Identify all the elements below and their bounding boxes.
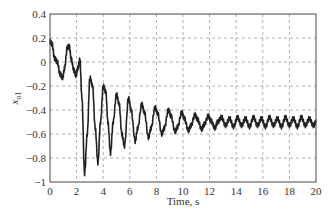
x-axis-label: Time, s [167, 195, 200, 207]
y-axis-label: xo1 [8, 92, 23, 106]
y-tick-label: −0.4 [26, 104, 46, 116]
line-chart: 02468101214161820 0.40.20−0.2−0.4−0.6−0.… [0, 0, 336, 215]
series-x-o1 [50, 40, 316, 176]
grid-lines [50, 14, 316, 182]
y-tick-label: −0.6 [26, 128, 46, 140]
y-tick-label: 0.2 [32, 32, 46, 44]
x-tick-label: 14 [231, 185, 243, 197]
y-tick-label: −1 [34, 176, 46, 188]
y-tick-label: −0.8 [26, 152, 46, 164]
series-line [50, 40, 316, 176]
x-tick-label: 6 [127, 185, 133, 197]
x-tick-label: 20 [311, 185, 323, 197]
x-tick-label: 8 [154, 185, 160, 197]
x-tick-label: 18 [284, 185, 296, 197]
y-tick-label: 0.4 [32, 8, 46, 20]
y-tick-label: −0.2 [26, 80, 46, 92]
x-tick-label: 4 [100, 185, 106, 197]
x-tick-label: 2 [74, 185, 80, 197]
y-tick-label: 0 [41, 56, 47, 68]
x-tick-label: 12 [204, 185, 215, 197]
x-tick-label: 16 [257, 185, 269, 197]
x-tick-label: 0 [47, 185, 53, 197]
y-axis-ticks: 0.40.20−0.2−0.4−0.6−0.8−1 [26, 8, 46, 188]
